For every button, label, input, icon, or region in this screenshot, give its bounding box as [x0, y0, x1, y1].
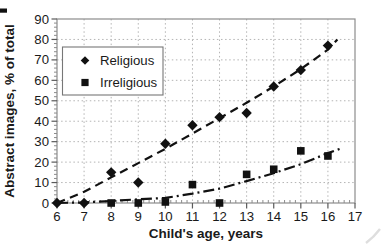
x-tick-label: 15 [293, 209, 308, 224]
marker-irreligious [189, 181, 197, 189]
marker-irreligious [243, 171, 251, 179]
x-tick-label: 9 [135, 209, 142, 224]
x-tick-label: 14 [266, 209, 281, 224]
scatter-chart: 678910111213141516170102030405060708090C… [0, 0, 381, 251]
y-tick-label: 70 [34, 52, 49, 67]
x-tick-label: 17 [348, 209, 363, 224]
y-tick-label: 90 [34, 12, 49, 27]
chart-figure: 678910111213141516170102030405060708090C… [0, 0, 381, 251]
y-tick-label: 40 [34, 114, 49, 129]
legend-label-religious: Religious [100, 53, 155, 68]
scan-artifact-top-left [0, 9, 7, 13]
marker-irreligious [216, 199, 224, 207]
marker-irreligious [107, 199, 115, 207]
y-tick-label: 80 [34, 32, 49, 47]
x-tick-label: 16 [321, 209, 336, 224]
x-axis-title: Child's age, years [149, 226, 263, 241]
y-tick-label: 60 [34, 73, 49, 88]
y-axis-title: Abstract images, % of total [2, 24, 17, 197]
marker-irreligious [324, 152, 332, 160]
x-tick-label: 8 [108, 209, 115, 224]
x-tick-label: 11 [186, 209, 200, 224]
marker-irreligious [297, 147, 305, 155]
marker-irreligious [270, 165, 278, 173]
x-tick-label: 12 [212, 209, 227, 224]
y-tick-label: 10 [34, 175, 49, 190]
x-tick-label: 13 [239, 209, 254, 224]
y-tick-label: 30 [34, 134, 49, 149]
x-tick-label: 6 [53, 209, 60, 224]
marker-irreligious [134, 199, 142, 207]
legend-label-irreligious: Irreligious [100, 75, 158, 90]
y-tick-label: 50 [34, 93, 49, 108]
y-tick-label: 20 [34, 155, 49, 170]
y-tick-label: 0 [42, 196, 49, 211]
x-tick-label: 7 [80, 209, 87, 224]
legend-marker-irreligious [81, 79, 88, 86]
marker-irreligious [162, 198, 170, 206]
x-tick-label: 10 [158, 209, 173, 224]
